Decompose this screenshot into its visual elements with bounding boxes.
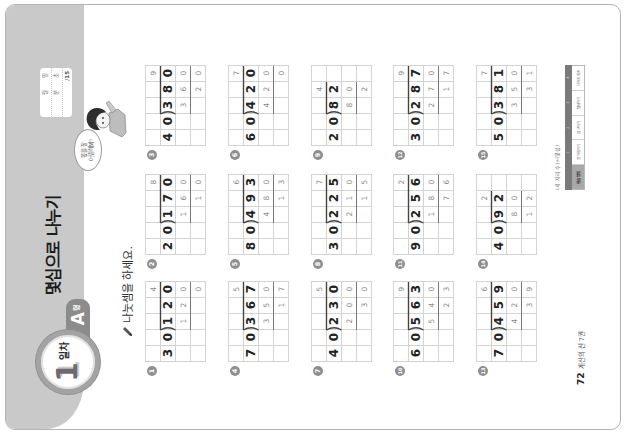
remainder-cell bbox=[522, 174, 537, 190]
problem-13: 1367045942039 bbox=[476, 281, 537, 362]
problem-14: 14240928012 bbox=[476, 174, 537, 255]
product-cell: 7 bbox=[424, 81, 439, 97]
quotient-cell bbox=[477, 129, 492, 145]
product-cell bbox=[424, 129, 439, 145]
problem-number-badge: 1 bbox=[147, 366, 157, 376]
problem-12: 1293028727017 bbox=[393, 65, 454, 146]
division-bracket-icon bbox=[490, 65, 508, 115]
remainder-cell bbox=[274, 113, 289, 129]
quotient-cell bbox=[312, 238, 327, 254]
problem-1: 14301201200 bbox=[145, 281, 206, 362]
division-grid: 68049348013 bbox=[228, 174, 289, 255]
remainder-cell: 0 bbox=[191, 174, 206, 190]
problem-number-badge: 4 bbox=[230, 366, 240, 376]
remainder-cell bbox=[357, 329, 372, 345]
division-grid: 94038036020 bbox=[145, 65, 206, 146]
dividend-cell: 9 bbox=[409, 238, 424, 254]
score-box: 월 일 분 초 /15 bbox=[40, 68, 72, 117]
remainder-cell bbox=[522, 345, 537, 361]
remainder-cell: 1 bbox=[191, 190, 206, 206]
division-grid: 54023020030 bbox=[311, 281, 372, 362]
problem-2: 282017016010 bbox=[145, 174, 206, 255]
remainder-cell bbox=[522, 113, 537, 129]
quotient-cell bbox=[312, 345, 327, 361]
type-suffix: 형 bbox=[71, 305, 81, 311]
product-cell bbox=[424, 238, 439, 254]
remainder-cell bbox=[439, 238, 454, 254]
division-grid: 29025618076 bbox=[393, 174, 454, 255]
dividend-cell: 2 bbox=[327, 129, 342, 145]
product-cell: 5 bbox=[259, 297, 274, 313]
remainder-cell bbox=[357, 345, 372, 361]
division-bracket-icon bbox=[242, 281, 260, 331]
remainder-cell: 7 bbox=[274, 281, 289, 297]
month-label: 월 bbox=[43, 90, 49, 95]
division-bracket-icon bbox=[159, 65, 177, 115]
division-bracket-icon bbox=[325, 174, 343, 224]
product-cell bbox=[342, 113, 357, 129]
dividend-cell: 0 bbox=[161, 113, 176, 129]
second-label: 초 bbox=[54, 73, 60, 78]
quotient-cell bbox=[477, 345, 492, 361]
quotient-cell bbox=[146, 222, 161, 238]
division-grid: 75038135031 bbox=[476, 65, 537, 146]
remainder-cell bbox=[274, 345, 289, 361]
problem-9: 942082802 bbox=[311, 65, 372, 146]
problem-number-badge: 10 bbox=[395, 366, 405, 376]
subtraction-line bbox=[521, 191, 522, 223]
dividend-cell: 0 bbox=[327, 113, 342, 129]
remainder-cell bbox=[357, 313, 372, 329]
problem-3: 394038036020 bbox=[145, 65, 206, 146]
remainder-cell: 1 bbox=[274, 297, 289, 313]
problem-number-badge: 6 bbox=[230, 150, 240, 160]
product-cell bbox=[342, 222, 357, 238]
product-cell bbox=[424, 329, 439, 345]
product-cell bbox=[342, 65, 357, 81]
remainder-cell: 3 bbox=[522, 81, 537, 97]
score-total: /15 bbox=[65, 71, 71, 81]
subtraction-line bbox=[356, 175, 357, 223]
product-cell bbox=[507, 113, 522, 129]
dividend-cell: 0 bbox=[161, 222, 176, 238]
problem-number-badge: 8 bbox=[313, 259, 323, 269]
product-cell bbox=[424, 345, 439, 361]
dividend-cell: 0 bbox=[244, 329, 259, 345]
quotient-cell bbox=[477, 238, 492, 254]
remainder-cell bbox=[191, 297, 206, 313]
product-cell: 8 bbox=[342, 97, 357, 113]
day-badge: 1 일차 bbox=[36, 330, 100, 394]
dividend-cell: 7 bbox=[492, 345, 507, 361]
subtraction-line bbox=[438, 282, 439, 330]
dividend-cell: 6 bbox=[409, 345, 424, 361]
product-cell: 2 bbox=[342, 313, 357, 329]
quotient-cell bbox=[477, 113, 492, 129]
quotient-cell bbox=[394, 113, 409, 129]
product-cell: 0 bbox=[507, 65, 522, 81]
quotient-cell bbox=[229, 113, 244, 129]
remainder-cell bbox=[522, 97, 537, 113]
product-cell bbox=[259, 345, 274, 361]
quotient-cell bbox=[394, 222, 409, 238]
table-label: 학습 방법 bbox=[572, 165, 584, 189]
division-grid: 96056354023 bbox=[393, 281, 454, 362]
quotient-cell bbox=[312, 113, 327, 129]
remainder-cell bbox=[274, 97, 289, 113]
remainder-cell bbox=[522, 329, 537, 345]
product-cell: 0 bbox=[424, 65, 439, 81]
footer-note: (세 자리 수)÷(몇십) bbox=[553, 145, 560, 190]
dividend-cell: 4 bbox=[327, 345, 342, 361]
instruction-text: 나눗셈을 하세요. bbox=[119, 246, 135, 323]
table-header bbox=[565, 165, 572, 190]
problem-11: 1129025618076 bbox=[393, 174, 454, 255]
subtraction-line bbox=[438, 175, 439, 223]
remainder-cell bbox=[274, 81, 289, 97]
product-cell bbox=[259, 222, 274, 238]
instruction: 나눗셈을 하세요. bbox=[119, 246, 135, 337]
product-cell: 4 bbox=[424, 297, 439, 313]
quotient-cell bbox=[394, 345, 409, 361]
remainder-cell: 1 bbox=[357, 190, 372, 206]
product-cell: 3 bbox=[259, 313, 274, 329]
table-cell: 뺄셈하기 bbox=[572, 91, 584, 116]
product-cell bbox=[507, 238, 522, 254]
product-cell: 1 bbox=[176, 313, 191, 329]
